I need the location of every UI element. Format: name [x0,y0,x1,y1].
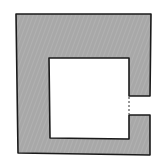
floor-plan-diagram [0,0,160,162]
